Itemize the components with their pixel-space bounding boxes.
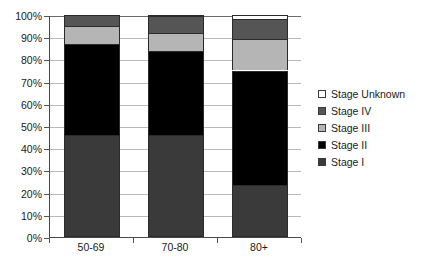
legend-item[interactable]: Stage IV <box>318 103 422 119</box>
y-tick-label: 60% <box>21 100 42 111</box>
legend-item-label: Stage I <box>331 157 364 168</box>
legend-item-label: Stage II <box>331 140 367 151</box>
x-tick-mark <box>217 238 218 243</box>
bars-layer <box>50 16 301 237</box>
legend-swatch-icon <box>318 90 326 98</box>
y-tick-label: 10% <box>21 211 42 222</box>
legend-swatch-icon <box>318 158 326 166</box>
y-tick-label: 90% <box>21 33 42 44</box>
bar-80+[interactable] <box>232 15 288 237</box>
y-tick-label: 30% <box>21 166 42 177</box>
legend-item[interactable]: Stage III <box>318 120 422 136</box>
bar-segment[interactable] <box>148 135 204 237</box>
bar-segment[interactable] <box>232 19 288 39</box>
y-tick-label: 50% <box>21 122 42 133</box>
y-tick-label: 80% <box>21 55 42 66</box>
plot-area <box>49 16 301 238</box>
bar-segment[interactable] <box>148 15 204 16</box>
bar-segment[interactable] <box>148 16 204 33</box>
bar-segment[interactable] <box>232 39 288 70</box>
bar-segment[interactable] <box>232 71 288 185</box>
bar-segment[interactable] <box>232 15 288 19</box>
bar-segment[interactable] <box>148 51 204 135</box>
y-tick-label: 0% <box>27 233 42 244</box>
x-tick-label: 50-69 <box>78 242 105 253</box>
bar-slot <box>134 16 218 237</box>
bar-segment[interactable] <box>64 26 120 44</box>
legend-item[interactable]: Stage II <box>318 137 422 153</box>
x-tick-label: 70-80 <box>162 242 189 253</box>
y-tick-label: 20% <box>21 188 42 199</box>
y-tick-label: 100% <box>15 11 42 22</box>
bar-segment[interactable] <box>64 15 120 26</box>
bar-segment[interactable] <box>232 185 288 237</box>
bar-segment[interactable] <box>64 135 120 237</box>
bar-segment[interactable] <box>64 44 120 135</box>
bar-50-69[interactable] <box>64 15 120 237</box>
x-tick-mark <box>301 238 302 243</box>
legend-swatch-icon <box>318 107 326 115</box>
bar-segment[interactable] <box>148 33 204 51</box>
y-tick-label: 70% <box>21 77 42 88</box>
stacked-bar-chart: 0%10%20%30%40%50%60%70%80%90%100% 50-697… <box>0 0 425 270</box>
bar-slot <box>50 16 134 237</box>
x-axis: 50-6970-8080+ <box>49 242 301 260</box>
bar-70-80[interactable] <box>148 15 204 237</box>
bar-slot <box>218 16 302 237</box>
y-tick-label: 40% <box>21 144 42 155</box>
legend-item-label: Stage Unknown <box>331 89 405 100</box>
x-tick-mark <box>49 238 50 243</box>
x-tick-label: 80+ <box>250 242 268 253</box>
legend-item-label: Stage IV <box>331 106 371 117</box>
legend: Stage UnknownStage IVStage IIIStage IISt… <box>318 86 422 171</box>
legend-item-label: Stage III <box>331 123 370 134</box>
legend-item[interactable]: Stage Unknown <box>318 86 422 102</box>
legend-item[interactable]: Stage I <box>318 154 422 170</box>
legend-swatch-icon <box>318 141 326 149</box>
legend-swatch-icon <box>318 124 326 132</box>
y-axis: 0%10%20%30%40%50%60%70%80%90%100% <box>0 16 42 238</box>
x-tick-mark <box>133 238 134 243</box>
